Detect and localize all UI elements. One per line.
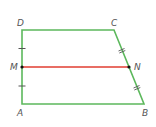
label-b: B [142,108,148,118]
point-m [20,65,23,68]
label-m: M [10,62,18,72]
label-a: A [16,108,23,118]
trapezoid-diagram: D C B A M N [0,0,156,127]
label-d: D [17,18,24,28]
label-n: N [134,62,141,72]
label-c: C [111,18,118,28]
point-n [127,65,130,68]
